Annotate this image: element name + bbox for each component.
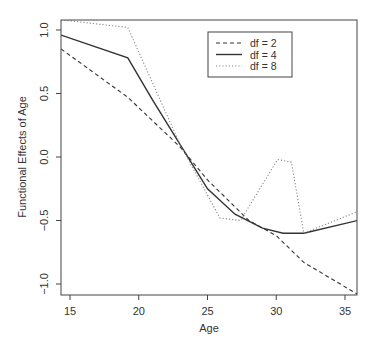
x-axis: 1520253035 [64,295,351,317]
x-tick-label: 25 [201,305,213,317]
legend-label: df = 8 [250,60,277,72]
y-axis: −1.0−0.50.00.51.0 [38,22,61,295]
x-axis-label: Age [199,322,219,334]
x-tick-label: 35 [339,305,351,317]
y-tick-label: 0.0 [38,149,50,164]
x-tick-label: 15 [64,305,76,317]
legend: df = 2df = 4df = 8 [208,32,292,77]
y-tick-label: 1.0 [38,22,50,37]
y-axis-label: Functional Effects of Age [16,96,28,217]
legend-label: df = 2 [250,37,277,49]
x-tick-label: 30 [270,305,282,317]
legend-label: df = 4 [250,49,277,61]
y-tick-label: −0.5 [38,210,50,232]
x-tick-label: 20 [133,305,145,317]
y-tick-label: 0.5 [38,86,50,101]
series-line-dashed [61,49,357,294]
chart: 1520253035 −1.0−0.50.00.51.0 Age Functio… [0,0,378,355]
y-tick-label: −1.0 [38,273,50,295]
